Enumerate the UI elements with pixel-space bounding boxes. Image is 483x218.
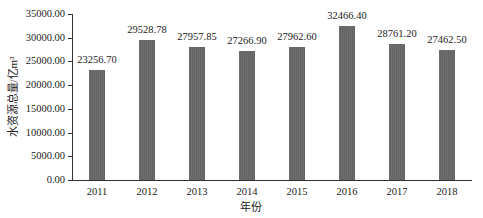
y-axis [72, 14, 73, 181]
y-tick-label: 15000.00 [26, 103, 65, 115]
bar-2013 [189, 47, 205, 180]
y-tick-label: 10000.00 [26, 127, 65, 139]
y-tick-label: 35000.00 [26, 8, 65, 20]
y-tick-mark [68, 85, 72, 86]
bar-2018 [439, 50, 455, 180]
y-tick-label: 25000.00 [26, 55, 65, 67]
y-tick-mark [68, 180, 72, 181]
bar-2017 [389, 44, 405, 180]
y-axis-label: 水资源总量/亿m³ [4, 57, 20, 138]
bar-2016 [339, 26, 355, 180]
bar-2015 [289, 47, 305, 180]
bar-value-label: 27462.50 [417, 34, 477, 46]
y-tick-label: 5000.00 [31, 150, 65, 162]
y-tick-label: 20000.00 [26, 79, 65, 91]
bar-chart: 0.005000.0010000.0015000.0020000.0025000… [0, 0, 483, 218]
x-axis [72, 180, 472, 181]
y-tick-mark [68, 133, 72, 134]
x-tick-label: 2017 [377, 186, 417, 198]
bar-2012 [139, 40, 155, 180]
x-tick-label: 2013 [177, 186, 217, 198]
y-tick-mark [68, 38, 72, 39]
x-tick-label: 2014 [227, 186, 267, 198]
y-tick-mark [68, 109, 72, 110]
y-tick-mark [68, 14, 72, 15]
bar-value-label: 23256.70 [67, 54, 127, 66]
y-tick-label: 0.00 [47, 174, 65, 186]
x-tick-label: 2015 [277, 186, 317, 198]
bar-2014 [239, 51, 255, 180]
bar-2011 [89, 70, 105, 180]
x-axis-label: 年份 [240, 198, 262, 214]
y-tick-mark [68, 156, 72, 157]
x-tick-label: 2011 [77, 186, 117, 198]
bar-value-label: 27962.60 [267, 31, 327, 43]
x-tick-label: 2012 [127, 186, 167, 198]
x-tick-label: 2016 [327, 186, 367, 198]
y-tick-label: 30000.00 [26, 32, 65, 44]
x-tick-label: 2018 [427, 186, 467, 198]
bar-value-label: 32466.40 [317, 10, 377, 22]
